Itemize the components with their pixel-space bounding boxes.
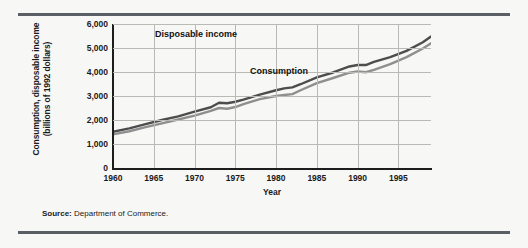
y-axis-title-line1: Consumption, disposable income [31,23,41,156]
series-label-consumption: Consumption [250,66,308,76]
y-axis-title-line2: (billions of 1992 dollars) [42,4,53,174]
gridline-vertical [154,24,155,168]
gridline-horizontal [113,96,431,97]
gridline-vertical [317,24,318,168]
bottom-rule [18,231,510,234]
x-axis-line [112,168,432,170]
gridline-vertical [358,24,359,168]
y-tick-label: 4,000 [87,67,108,77]
x-tick-label: 1975 [226,173,245,183]
plot-area: 01,0002,0003,0004,0005,0006,000 19601965… [113,24,431,168]
y-tick-label: 6,000 [87,19,108,29]
gridline-horizontal [113,144,431,145]
x-tick-label: 1980 [267,173,286,183]
gridline-vertical [398,24,399,168]
source-label: Source: [42,209,72,218]
gridline-vertical [276,24,277,168]
y-tick-label: 2,000 [87,115,108,125]
series-label-disposable-income: Disposable income [155,29,237,39]
x-tick-label: 1960 [104,173,123,183]
x-tick-label: 1990 [348,173,367,183]
y-tick-label: 5,000 [87,43,108,53]
y-tick-label: 1,000 [87,139,108,149]
gridline-vertical [195,24,196,168]
gridline-horizontal [113,24,431,25]
line-disposable-income [113,36,431,131]
x-tick-label: 1995 [389,173,408,183]
gridline-horizontal [113,120,431,121]
x-tick-label: 1965 [144,173,163,183]
y-tick-label: 3,000 [87,91,108,101]
x-tick-label: 1985 [307,173,326,183]
x-tick-label: 1970 [185,173,204,183]
top-rule [18,13,510,16]
gridline-horizontal [113,48,431,49]
y-tick-label: 0 [103,163,108,173]
y-axis-title: Consumption, disposable income (billions… [31,4,53,174]
x-axis-title: Year [263,187,281,197]
gridline-vertical [235,24,236,168]
figure-container: Consumption, disposable income (billions… [0,0,528,248]
source-value: Department of Commerce. [72,209,168,218]
source-note: Source: Department of Commerce. [42,209,168,218]
